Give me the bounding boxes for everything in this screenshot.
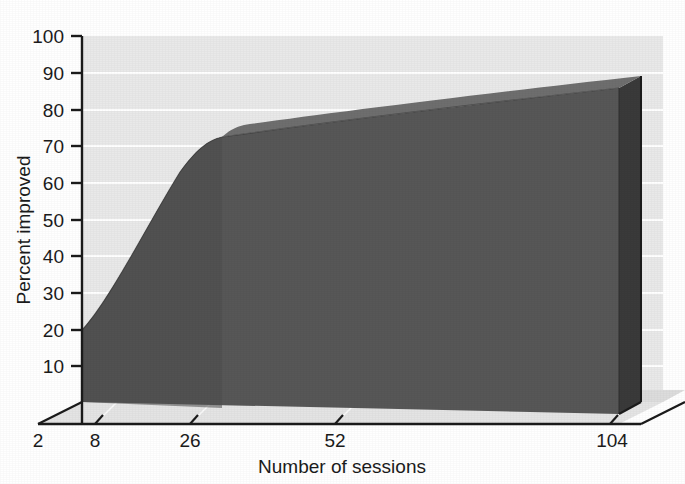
area-chart: 100 90 80 70 60 50 40 30 20 10 Percent i…	[0, 0, 685, 484]
y-tick-label-80: 80	[43, 100, 64, 121]
y-tick-label-90: 90	[43, 63, 64, 84]
y-tick-label-50: 50	[43, 210, 64, 231]
x-tick-label-52: 52	[324, 430, 345, 451]
x-tick-label-8: 8	[90, 430, 101, 451]
area-depth-face-right	[619, 76, 641, 414]
y-tick-label-10: 10	[43, 356, 64, 377]
y-tick-label-70: 70	[43, 136, 64, 157]
x-tick-label-2: 2	[33, 430, 44, 451]
y-tick-label-40: 40	[43, 246, 64, 267]
y-axis-title: Percent improved	[13, 156, 34, 305]
x-axis-title: Number of sessions	[258, 456, 426, 477]
x-tick-label-26: 26	[179, 430, 200, 451]
y-tick-label-60: 60	[43, 173, 64, 194]
y-tick-label-20: 20	[43, 320, 64, 341]
y-tick-label-100: 100	[32, 26, 64, 47]
y-axis-ticks	[71, 36, 82, 366]
y-tick-label-30: 30	[43, 283, 64, 304]
figure-container: 100 90 80 70 60 50 40 30 20 10 Percent i…	[0, 0, 685, 484]
x-tick-label-104: 104	[596, 430, 628, 451]
